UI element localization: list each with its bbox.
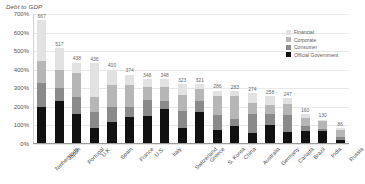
bar-stack[interactable] bbox=[37, 20, 46, 144]
bar-total-label: 286 bbox=[213, 83, 221, 89]
bar-segment-consumer bbox=[213, 115, 222, 130]
bar-segment-official-government bbox=[125, 117, 134, 144]
bar-segment-corporate bbox=[143, 87, 152, 100]
bar-segment-corporate bbox=[265, 105, 274, 114]
y-axis-tick-label: 0% bbox=[20, 141, 29, 147]
bar-total-label: 348 bbox=[160, 72, 168, 78]
x-axis-tick-label: Russia bbox=[348, 146, 364, 162]
chart-title: Debt to GDP bbox=[6, 3, 42, 10]
bar-segment-corporate bbox=[336, 130, 345, 137]
y-axis-tick-label: 300% bbox=[14, 85, 29, 91]
gridline bbox=[33, 144, 349, 145]
bar-stack[interactable] bbox=[195, 84, 204, 144]
bar-segment-corporate bbox=[90, 97, 99, 112]
legend-swatch bbox=[286, 52, 291, 57]
legend-label: Corporate bbox=[294, 37, 316, 43]
y-axis-labels: 700%600%500%400%300%200%100%0% bbox=[0, 14, 33, 144]
x-axis-tick-label: Germany bbox=[280, 146, 301, 167]
y-axis-tick-label: 100% bbox=[14, 122, 29, 128]
bar-total-label: 667 bbox=[38, 13, 46, 19]
bar-total-label: 517 bbox=[55, 41, 63, 47]
bar-segment-corporate bbox=[125, 85, 134, 107]
bar-segment-financial bbox=[37, 20, 46, 61]
bar-segment-consumer bbox=[178, 111, 187, 128]
bar-segment-corporate bbox=[195, 89, 204, 101]
bar-stack[interactable] bbox=[160, 79, 169, 144]
bar-segment-corporate bbox=[318, 121, 327, 129]
bar-stack[interactable] bbox=[90, 63, 99, 144]
bar-segment-official-government bbox=[178, 128, 187, 144]
bar-segment-financial bbox=[248, 93, 257, 103]
bar-stack[interactable] bbox=[336, 128, 345, 144]
bar-segment-corporate bbox=[107, 85, 116, 107]
bar-segment-consumer bbox=[125, 107, 134, 117]
legend-swatch bbox=[286, 45, 291, 50]
bar-stack[interactable] bbox=[248, 93, 257, 144]
y-axis-tick-label: 200% bbox=[14, 104, 29, 110]
bar-total-label: 348 bbox=[143, 72, 151, 78]
bar-stack[interactable] bbox=[125, 75, 134, 144]
bar-segment-corporate bbox=[37, 61, 46, 83]
legend-item[interactable]: Consumer bbox=[286, 44, 338, 50]
bar-segment-consumer bbox=[107, 107, 116, 122]
y-axis-tick-label: 700% bbox=[14, 11, 29, 17]
bar-segment-official-government bbox=[265, 125, 274, 144]
bar-stack[interactable] bbox=[55, 48, 64, 144]
x-axis-tick-label: Australia bbox=[262, 146, 282, 166]
legend-swatch bbox=[286, 30, 291, 35]
bar-stack[interactable] bbox=[230, 91, 239, 144]
bar-stack[interactable] bbox=[213, 91, 222, 144]
bar-segment-corporate bbox=[55, 70, 64, 88]
bar-total-label: 374 bbox=[125, 67, 133, 73]
bar-total-label: 436 bbox=[90, 56, 98, 62]
bar-segment-corporate bbox=[230, 96, 239, 119]
bar-segment-corporate bbox=[248, 103, 257, 114]
bar-total-label: 247 bbox=[283, 91, 291, 97]
x-axis-tick-label: Brazil bbox=[312, 146, 326, 160]
legend-label: Financial bbox=[294, 29, 314, 35]
bar-stack[interactable] bbox=[107, 70, 116, 144]
bar-total-label: 274 bbox=[248, 86, 256, 92]
bar-segment-official-government bbox=[195, 112, 204, 144]
bar-stack[interactable] bbox=[143, 79, 152, 144]
y-axis-tick-label: 400% bbox=[14, 67, 29, 73]
bar-segment-financial bbox=[160, 79, 169, 87]
bar-segment-consumer bbox=[37, 83, 46, 107]
bar-segment-financial bbox=[125, 75, 134, 85]
legend-item[interactable]: Financial bbox=[286, 29, 338, 35]
bar-segment-consumer bbox=[90, 112, 99, 127]
bar-segment-official-government bbox=[107, 122, 116, 144]
x-axis-tick-label: Japan bbox=[67, 146, 82, 161]
x-axis-tick-label: U.S. bbox=[153, 146, 165, 158]
legend-item[interactable]: Official Government bbox=[286, 52, 338, 58]
bar-stack[interactable] bbox=[178, 84, 187, 144]
bar-stack[interactable] bbox=[283, 98, 292, 144]
bar-segment-corporate bbox=[301, 118, 310, 126]
bar-segment-corporate bbox=[72, 73, 81, 97]
bar-segment-consumer bbox=[265, 114, 274, 125]
bar-total-label: 258 bbox=[266, 89, 274, 95]
bar-segment-corporate bbox=[178, 95, 187, 111]
bar-stack[interactable] bbox=[265, 96, 274, 144]
bar-segment-consumer bbox=[72, 97, 81, 114]
x-axis-tick-label: France bbox=[138, 146, 155, 163]
bar-segment-official-government bbox=[55, 101, 64, 144]
bar-stack[interactable] bbox=[301, 114, 310, 144]
bar-total-label: 400 bbox=[108, 62, 116, 68]
bar-segment-corporate bbox=[213, 96, 222, 116]
x-axis-tick-label: India bbox=[329, 146, 342, 159]
bar-stack[interactable] bbox=[72, 63, 81, 144]
bar-total-label: 283 bbox=[231, 84, 239, 90]
legend-label: Official Government bbox=[294, 52, 338, 58]
bar-segment-financial bbox=[265, 96, 274, 105]
x-axis-line bbox=[33, 143, 349, 144]
bar-segment-financial bbox=[143, 79, 152, 87]
bar-segment-consumer bbox=[283, 115, 292, 132]
x-axis-tick-label: Spain bbox=[119, 146, 133, 160]
bar-segment-consumer bbox=[143, 100, 152, 116]
legend-item[interactable]: Corporate bbox=[286, 37, 338, 43]
chart-legend: FinancialCorporateConsumerOfficial Gover… bbox=[286, 29, 338, 58]
bar-stack[interactable] bbox=[318, 120, 327, 144]
bar-segment-official-government bbox=[90, 128, 99, 144]
